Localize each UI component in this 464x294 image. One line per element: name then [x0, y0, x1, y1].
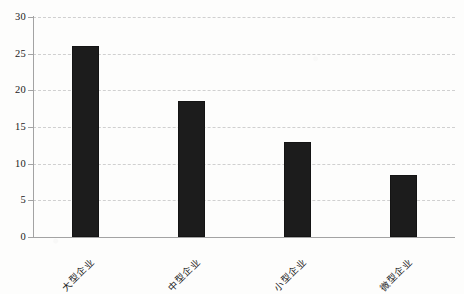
bar-micro-enterprise	[390, 175, 417, 237]
y-tick-30	[28, 17, 33, 18]
y-tick-label-20: 20	[6, 84, 26, 95]
y-tick-0	[28, 237, 33, 238]
bar-small-enterprise	[284, 142, 311, 237]
y-tick-label-0: 0	[6, 231, 26, 242]
x-axis-line	[33, 237, 455, 238]
y-tick-label-5: 5	[6, 194, 26, 205]
y-tick-label-10: 10	[6, 158, 26, 169]
y-tick-label-25: 25	[6, 48, 26, 59]
y-axis-line	[33, 16, 34, 238]
x-tick-label-micro-enterprise: 微型企业	[376, 255, 415, 294]
x-tick-label-large-enterprise: 大型企业	[58, 255, 97, 294]
y-tick-5	[28, 200, 33, 201]
bar-chart: 30 25 20 15 10 5 0 大型企业 中型企业 小型企业 微型企业	[0, 0, 464, 294]
y-tick-25	[28, 54, 33, 55]
y-tick-label-30: 30	[6, 11, 26, 22]
bar-medium-enterprise	[178, 101, 205, 237]
y-tick-label-15: 15	[6, 121, 26, 132]
y-tick-15	[28, 127, 33, 128]
gridline-30	[33, 17, 455, 18]
x-tick-label-medium-enterprise: 中型企业	[164, 255, 203, 294]
x-tick-label-small-enterprise: 小型企业	[270, 255, 309, 294]
y-tick-20	[28, 90, 33, 91]
y-tick-10	[28, 164, 33, 165]
bar-large-enterprise	[72, 46, 99, 237]
